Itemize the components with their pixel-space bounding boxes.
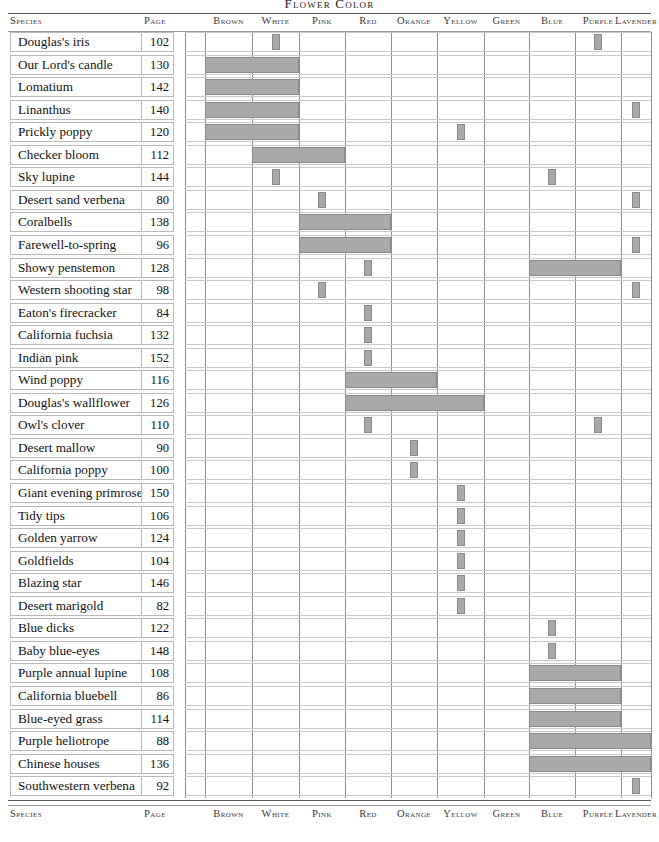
species-row[interactable]: Coralbells138 [10,212,174,232]
color-range-bar [529,688,621,704]
species-row[interactable]: California fuchsia132 [10,325,174,345]
species-name: California bluebell [18,688,117,704]
species-row[interactable]: Golden yarrow124 [10,528,174,548]
color-range-bar [457,575,465,591]
species-row[interactable]: California bluebell86 [10,686,174,706]
plot-row [185,528,651,548]
plot-row [185,348,651,368]
species-row[interactable]: California poppy100 [10,460,174,480]
grid-line-v-11 [651,32,652,798]
page-number: 128 [144,260,169,275]
plot-row [185,483,651,503]
species-row[interactable]: Blue dicks122 [10,618,174,638]
footer-rule-top [8,800,651,801]
color-column-header-white: White [262,15,290,26]
color-column-header-red: Red [359,808,377,819]
color-range-bar [632,282,640,298]
plot-row [185,641,651,661]
page-number: 124 [144,531,169,546]
species-row[interactable]: Desert sand verbena80 [10,190,174,210]
species-row[interactable]: Blazing star146 [10,573,174,593]
species-name: Blazing star [18,575,81,591]
species-row[interactable]: Blue-eyed grass114 [10,709,174,729]
species-row[interactable]: Lomatium142 [10,77,174,97]
color-range-bar [548,643,556,659]
color-range-bar [594,417,602,433]
species-row[interactable]: Linanthus140 [10,100,174,120]
species-row[interactable]: Southwestern verbena92 [10,776,174,796]
page-number: 86 [144,688,169,703]
species-row[interactable]: Giant evening primrose150 [10,483,174,503]
species-name: Our Lord's candle [18,57,113,73]
page-number: 136 [144,756,169,771]
species-row[interactable]: Wind poppy116 [10,370,174,390]
plot-row [185,618,651,638]
color-column-header-brown: Brown [213,808,243,819]
color-range-bar [205,102,299,118]
species-row[interactable]: Eaton's firecracker84 [10,303,174,323]
color-range-bar [632,102,640,118]
cell-divider [141,394,142,412]
species-row[interactable]: Checker bloom112 [10,145,174,165]
species-row[interactable]: Douglas's wallflower126 [10,393,174,413]
color-range-bar [299,214,391,230]
species-row[interactable]: Farewell-to-spring96 [10,235,174,255]
species-name: Lomatium [18,79,73,95]
species-row[interactable]: Western shooting star98 [10,280,174,300]
plot-row [185,303,651,323]
species-row[interactable]: Desert mallow90 [10,438,174,458]
species-name: Douglas's iris [18,34,90,50]
species-row[interactable]: Our Lord's candle130 [10,55,174,75]
species-row[interactable]: Baby blue-eyes148 [10,641,174,661]
color-range-bar [548,169,556,185]
species-name: Sky lupine [18,169,75,185]
plot-row [185,506,651,526]
species-row[interactable]: Owl's clover110 [10,415,174,435]
plot-area [185,32,651,798]
color-range-bar [272,34,280,50]
species-name: Coralbells [18,214,72,230]
color-range-bar [529,260,621,276]
species-row[interactable]: Tidy tips106 [10,506,174,526]
page-number: 82 [144,598,169,613]
species-row[interactable]: Desert marigold82 [10,596,174,616]
column-header-row: SpeciesPageBrownWhitePinkRedOrangeYellow… [8,15,651,31]
page-column-header: Page [144,15,166,26]
color-column-header-red: Red [359,15,377,26]
color-range-bar [345,372,437,388]
species-row[interactable]: Sky lupine144 [10,167,174,187]
species-name: Baby blue-eyes [18,643,100,659]
page-number: 90 [144,440,169,455]
cell-divider [141,304,142,322]
page-number: 84 [144,305,169,320]
page-number: 96 [144,237,169,252]
species-row[interactable]: Purple heliotrope88 [10,731,174,751]
species-row[interactable]: Showy penstemon128 [10,258,174,278]
cell-divider [141,619,142,637]
color-column-header-green: Green [493,15,521,26]
color-range-bar [529,665,621,681]
color-range-bar [318,192,326,208]
page-number: 100 [144,463,169,478]
page-number: 126 [144,395,169,410]
cell-divider [141,642,142,660]
species-column-header: Species [10,15,42,26]
color-range-bar [364,417,372,433]
species-row[interactable]: Purple annual lupine108 [10,663,174,683]
color-range-bar [457,598,465,614]
color-column-header-white: White [262,808,290,819]
page-number: 152 [144,350,169,365]
cell-divider [141,484,142,502]
page-number: 120 [144,125,169,140]
color-range-bar [457,485,465,501]
species-row[interactable]: Indian pink152 [10,348,174,368]
species-row[interactable]: Goldfields104 [10,551,174,571]
cell-divider [141,529,142,547]
color-range-bar [410,462,418,478]
species-row[interactable]: Chinese houses136 [10,754,174,774]
color-column-header-lavender: Lavender [615,15,657,26]
species-row[interactable]: Prickly poppy120 [10,122,174,142]
color-column-header-lavender: Lavender [615,808,657,819]
species-row[interactable]: Douglas's iris102 [10,32,174,52]
color-range-bar [364,260,372,276]
